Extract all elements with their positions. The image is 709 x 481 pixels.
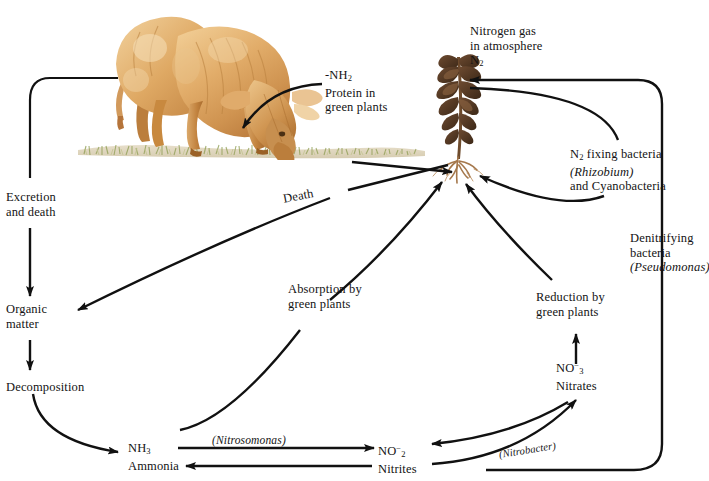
flow-ammonia-to-plant-roots — [180, 330, 300, 430]
flow-nitrates-to-nitrites — [432, 402, 568, 444]
label-excretion-and-death: Excretion and death — [6, 190, 56, 219]
label-nitrogen-gas: Nitrogen gas in atmosphere N2 — [470, 24, 542, 71]
label-nitrites: NO−2 Nitrites — [378, 441, 417, 476]
label-decomposition: Decomposition — [6, 380, 84, 395]
flow-death-stub — [348, 165, 448, 190]
nitrogen-cycle-diagram: Nitrogen gas in atmosphere N2 -NH2 Prote… — [0, 0, 709, 481]
label-n2-fixing-bacteria: N2 fixing bacteria (Rhizobium) and Cyano… — [570, 147, 666, 194]
label-denitrifying-bacteria: Denitrifying bacteria (Pseudomonas) — [630, 231, 709, 275]
label-ammonia: NH3 Ammonia — [128, 441, 179, 473]
label-absorption-by-green-plants: Absorption by green plants — [288, 282, 362, 311]
flow-cow-to-excretion — [30, 78, 118, 178]
label-organic-matter: Organic matter — [6, 302, 47, 331]
flow-denitrification-to-n2 — [470, 80, 662, 470]
flow-n2-to-fixing-bacteria — [470, 88, 618, 140]
label-nitrosomonas: (Nitrosomonas) — [212, 433, 286, 448]
label-reduction-by-green-plants: Reduction by green plants — [536, 290, 605, 319]
flow-decomposition-to-ammonia — [33, 394, 118, 452]
label-nitrates: NO−3 Nitrates — [556, 358, 597, 393]
flow-reduction-to-roots — [466, 184, 552, 280]
label-protein-in-green-plants: -NH2 Protein in green plants — [325, 68, 388, 115]
flow-protein-to-cow — [243, 84, 322, 128]
